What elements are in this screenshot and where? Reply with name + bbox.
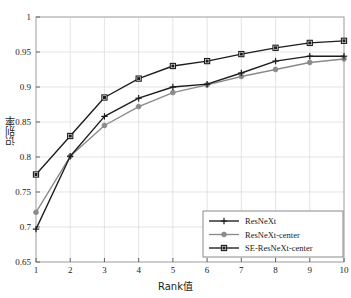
y-tick-label: 0.95 xyxy=(15,47,31,57)
y-tick-label: 0.7 xyxy=(20,222,32,232)
series-resnext-center xyxy=(34,57,347,215)
x-tick-label: 10 xyxy=(340,265,350,275)
y-tick-label: 1 xyxy=(27,12,32,22)
x-tick-label: 8 xyxy=(273,265,278,275)
y-tick-label: 0.9 xyxy=(20,82,32,92)
series-se-resnext-center xyxy=(33,38,346,177)
legend-label: ResNeXt xyxy=(245,216,277,226)
legend-label: ResNeXt-center xyxy=(245,230,300,240)
x-tick-label: 9 xyxy=(308,265,313,275)
legend-box[interactable]: ResNeXtResNeXt-centerSE-ResNeXt-center xyxy=(203,211,343,257)
x-tick-label: 5 xyxy=(171,265,176,275)
x-tick-labels: 12345678910 xyxy=(34,265,349,275)
data-series-group xyxy=(33,38,347,232)
y-tick-label: 0.65 xyxy=(15,257,31,267)
x-axis-label: Rank值 xyxy=(0,278,351,293)
plot-canvas: 0.650.70.750.80.850.90.951 12345678910 R… xyxy=(0,0,351,298)
x-tick-label: 7 xyxy=(239,265,244,275)
legend-label: SE-ResNeXt-center xyxy=(245,243,313,253)
y-tick-label: 0.85 xyxy=(15,117,31,127)
x-tick-label: 3 xyxy=(102,265,107,275)
chart-figure: 0.650.70.750.80.850.90.951 12345678910 R… xyxy=(0,0,351,298)
x-tick-label: 1 xyxy=(34,265,39,275)
series-resnext xyxy=(33,53,347,232)
y-tick-labels: 0.650.70.750.80.850.90.951 xyxy=(15,12,31,267)
x-tick-label: 6 xyxy=(205,265,210,275)
y-tick-label: 0.75 xyxy=(15,187,31,197)
x-tick-label: 4 xyxy=(136,265,141,275)
y-tick-label: 0.8 xyxy=(20,152,32,162)
x-tick-label: 2 xyxy=(68,265,73,275)
